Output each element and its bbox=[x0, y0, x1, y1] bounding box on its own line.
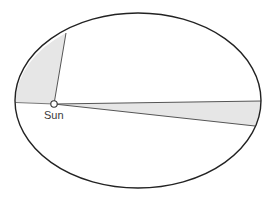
swept-area-right bbox=[54, 101, 261, 126]
kepler-orbit-diagram bbox=[0, 0, 272, 200]
sun-icon bbox=[51, 101, 57, 107]
sun-label: Sun bbox=[44, 109, 64, 121]
